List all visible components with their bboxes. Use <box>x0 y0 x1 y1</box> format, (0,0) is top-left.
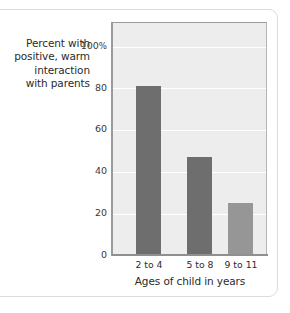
y-tick-40: 40 <box>47 166 107 176</box>
y-tick-60: 60 <box>47 124 107 134</box>
bar-2-to-4 <box>136 86 161 255</box>
plot-area <box>112 22 267 255</box>
gridline-100 <box>112 47 266 48</box>
y-axis-label-line-3: interaction <box>2 64 90 77</box>
bar-5-to-8 <box>187 157 212 255</box>
y-axis-line <box>111 22 113 256</box>
y-tick-100: 100% <box>47 41 107 51</box>
percent-sign: % <box>99 41 107 51</box>
x-tick-2-to-4: 2 to 4 <box>122 259 176 270</box>
y-axis-label-line-2: positive, warm <box>2 50 90 63</box>
y-tick-20: 20 <box>47 208 107 218</box>
y-tick-100-value: 100 <box>81 40 99 51</box>
x-tick-9-to-11: 9 to 11 <box>214 259 268 270</box>
bar-9-to-11 <box>228 203 253 255</box>
x-axis-title: Ages of child in years <box>112 275 268 287</box>
chart-figure: Percent with positive, warm interaction … <box>0 0 290 313</box>
y-tick-0: 0 <box>47 250 107 260</box>
x-axis-line <box>112 254 268 256</box>
y-tick-80: 80 <box>47 83 107 93</box>
